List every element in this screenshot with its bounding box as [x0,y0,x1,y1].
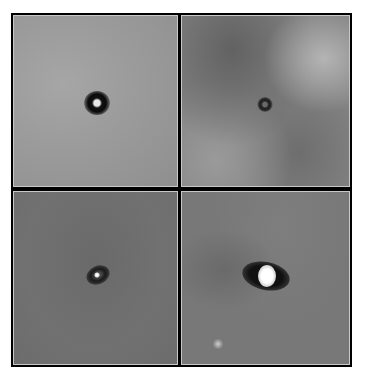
dark-ring [84,91,110,115]
bright-core [258,265,276,287]
image-grid-frame [11,13,352,367]
bright-core [94,272,100,278]
panel-top-right [181,15,350,187]
panel-bottom-right [181,191,350,365]
panel-top-left [13,15,178,187]
faint-point-source [213,339,223,349]
panel-bottom-left [13,191,178,365]
dark-ring [257,97,273,112]
